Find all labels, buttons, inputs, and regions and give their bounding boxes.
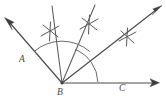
ray-third-bisector-line [62, 10, 156, 83]
ray-third-bisector [62, 6, 162, 84]
construction-arc-inner [76, 50, 98, 82]
construction-cross-middle [80, 15, 98, 34]
point-label-B: B [57, 88, 63, 98]
construction-arc-outer [34, 41, 89, 51]
ray-first-bisector [52, 6, 62, 83]
geometry-figure: A B C [0, 0, 166, 107]
vertex-point-B [61, 82, 64, 85]
ray-BA-line [10, 23, 62, 83]
ray-BC [62, 79, 160, 87]
point-label-C: C [119, 84, 125, 94]
ray-first-bisector-line [52, 6, 62, 83]
ray-BA-arrowhead [5, 18, 15, 30]
ray-BA [5, 18, 63, 84]
point-label-A: A [19, 55, 25, 65]
ray-third-bisector-arrowhead [152, 6, 162, 16]
